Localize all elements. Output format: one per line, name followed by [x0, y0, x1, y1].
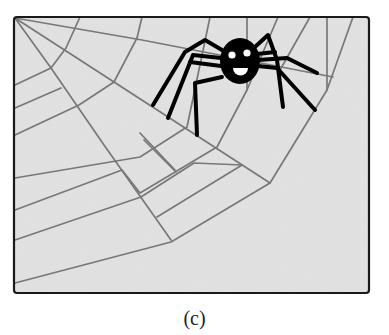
- figure-caption: (c): [0, 306, 389, 330]
- spider-leg: [257, 52, 275, 54]
- spider-web-illustration: [0, 0, 389, 335]
- spider-eye: [228, 51, 235, 58]
- spider-eye: [243, 49, 250, 56]
- spider-web-figure: (c): [0, 0, 389, 335]
- spider-body: [220, 38, 260, 84]
